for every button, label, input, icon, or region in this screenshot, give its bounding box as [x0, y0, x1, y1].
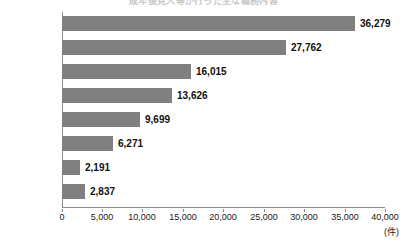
- x-tick-label-6: 30,000: [281, 212, 327, 222]
- x-axis-unit-label: (件): [384, 225, 399, 238]
- chart-title-text: 成年後見人等が行った主な職務内容: [129, 0, 278, 6]
- bar-7: [62, 184, 85, 199]
- bar-value-3: 13,626: [172, 88, 208, 103]
- chart-title-cropped: 成年後見人等が行った主な職務内容: [0, 0, 407, 7]
- bar-value-4: 9,699: [140, 112, 170, 127]
- bar-value-1: 27,762: [286, 40, 322, 55]
- bar-value-7: 2,837: [85, 184, 115, 199]
- x-tick-label-4: 20,000: [200, 212, 246, 222]
- x-axis-line: [62, 207, 385, 208]
- x-tick-label-8: 40,000: [362, 212, 407, 222]
- bar-1: [62, 40, 286, 55]
- bar-0: [62, 16, 355, 31]
- plot-area: 預貯金等の 管理・解約 36,279 身上保護 27,762 介護保険契約 16…: [62, 12, 385, 207]
- bar-3: [62, 88, 172, 103]
- bar-6: [62, 160, 80, 175]
- x-tick-label-2: 10,000: [119, 212, 165, 222]
- bar-chart: 成年後見人等が行った主な職務内容 預貯金等の 管理・解約 36,279 身上保護…: [0, 0, 407, 241]
- bar-value-2: 16,015: [191, 64, 227, 79]
- bar-value-0: 36,279: [355, 16, 391, 31]
- bar-5: [62, 136, 113, 151]
- bar-2: [62, 64, 191, 79]
- bar-value-6: 2,191: [80, 160, 110, 175]
- bar-value-5: 6,271: [113, 136, 143, 151]
- bar-4: [62, 112, 140, 127]
